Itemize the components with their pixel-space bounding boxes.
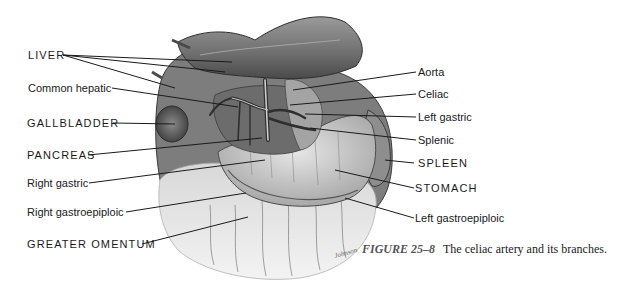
figure-number: FIGURE 25–8	[362, 242, 435, 256]
label-left-gastric: Left gastric	[418, 111, 472, 123]
figure-caption: FIGURE 25–8The celiac artery and its bra…	[362, 241, 630, 258]
label-right-gastric: Right gastric	[27, 177, 88, 189]
label-spleen: SPLEEN	[418, 157, 468, 169]
label-liver: LIVER	[28, 49, 65, 61]
label-common-hepatic: Common hepatic	[28, 82, 111, 94]
label-aorta: Aorta	[418, 66, 444, 78]
figure: Johnson	[0, 0, 631, 285]
label-celiac: Celiac	[418, 88, 449, 100]
label-gallbladder: GALLBLADDER	[27, 117, 119, 129]
label-splenic: Splenic	[418, 134, 454, 146]
caption-text: The celiac artery and its branches.	[443, 242, 607, 256]
label-right-gastroepiploic: Right gastroepiploic	[27, 206, 124, 218]
label-pancreas: PANCREAS	[27, 149, 96, 161]
label-greater-omentum: GREATER OMENTUM	[27, 238, 156, 250]
label-left-gastroepiploic: Left gastroepiploic	[415, 212, 504, 224]
label-stomach: STOMACH	[415, 182, 478, 194]
